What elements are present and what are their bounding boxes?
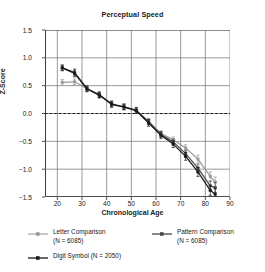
- legend-item-pattern-comparison: Pattern Comparison (N = 6085): [152, 228, 234, 245]
- x-tick-label: 40: [96, 200, 118, 207]
- y-tick-label: −1.5: [6, 194, 32, 201]
- x-tick-label: 50: [120, 200, 142, 207]
- y-axis-title: Z-Score: [0, 52, 6, 112]
- y-tick-label: 1.0: [6, 54, 32, 61]
- x-tick-label: 90: [219, 200, 241, 207]
- y-tick-label: −0.5: [6, 138, 32, 145]
- legend-marker-pattern-comparison: [152, 231, 172, 237]
- chart-legend: Letter Comparison (N = 6085) Pattern Com…: [0, 226, 265, 272]
- y-tick-label: 1.5: [6, 27, 32, 34]
- legend-marker-digit-symbol: [28, 255, 48, 261]
- y-tick-label: 0.5: [6, 82, 32, 89]
- x-tick-label: 80: [194, 200, 216, 207]
- legend-sublabel-letter-comparison: (N = 6085): [53, 237, 106, 246]
- legend-marker-letter-comparison: [28, 231, 48, 237]
- x-axis-title: Chronological Age: [0, 209, 265, 216]
- legend-label-pattern-comparison: Pattern Comparison: [177, 228, 234, 237]
- y-tick-label: 0.0: [6, 110, 32, 117]
- chart-title: Perceptual Speed: [0, 10, 265, 19]
- perceptual-speed-figure: Perceptual Speed Z-Score Chronological A…: [0, 0, 265, 272]
- x-tick-label: 70: [170, 200, 192, 207]
- x-tick-label: 20: [46, 200, 68, 207]
- tick-marks-layer: [45, 30, 230, 197]
- legend-label-digit-symbol: Digit Symbol (N = 2050): [53, 252, 121, 261]
- legend-item-letter-comparison: Letter Comparison (N = 6085): [28, 228, 106, 245]
- legend-item-digit-symbol: Digit Symbol (N = 2050): [28, 252, 121, 261]
- y-tick-label: −1.0: [6, 166, 32, 173]
- legend-sublabel-pattern-comparison: (N = 6085): [177, 237, 234, 246]
- x-tick-label: 30: [71, 200, 93, 207]
- legend-label-letter-comparison: Letter Comparison: [53, 228, 106, 237]
- plot-area: [45, 30, 230, 197]
- x-tick-label: 60: [145, 200, 167, 207]
